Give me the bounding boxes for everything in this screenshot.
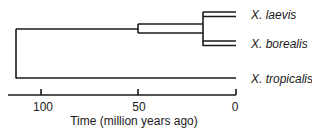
tick-label-50: 50 — [132, 101, 145, 113]
taxon-label-laevis: X. laevis — [251, 9, 296, 21]
tick-label-100: 100 — [33, 101, 53, 113]
tick-label-0: 0 — [232, 101, 239, 113]
taxon-label-borealis: X. borealis — [251, 38, 308, 50]
taxon-label-tropicalis: X. tropicalis — [251, 73, 312, 85]
axis-title: Time (million years ago) — [70, 115, 198, 127]
